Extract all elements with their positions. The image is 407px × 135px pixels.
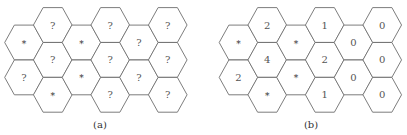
cell-value: ? [50,54,55,65]
cell-value: 0 [350,72,356,83]
cell-value: 1 [322,89,328,100]
cell-value: 0 [350,37,356,48]
cell-value: ? [108,89,113,100]
cell-value: 4 [264,54,270,65]
cell-value: ? [50,20,55,31]
cell-value: 2 [322,54,328,65]
cell-value: ? [108,54,113,65]
cell-value: ? [136,72,141,83]
hex-minesweeper-diagram: *???***???????? *224***12100000 (a) (b) [0,0,407,135]
panel-b: *224***12100000 [219,8,401,113]
mine-marker: * [265,91,270,101]
cell-value: 0 [379,20,385,31]
mine-marker: * [294,39,299,49]
cell-value: ? [136,37,141,48]
cell-value: ? [165,20,170,31]
cell-value: ? [108,20,113,31]
cell-value: ? [165,89,170,100]
cell-value: 1 [322,20,328,31]
cell-value: 0 [379,89,385,100]
mine-marker: * [79,39,84,49]
mine-marker: * [51,91,56,101]
mine-marker: * [294,73,299,83]
panel-b-label: (b) [304,119,318,130]
cell-value: 2 [264,20,270,31]
cell-value: 2 [235,72,241,83]
cell-value: 0 [379,54,385,65]
mine-marker: * [22,39,27,49]
panel-a-label: (a) [93,119,107,130]
mine-marker: * [79,73,84,83]
cell-value: ? [165,54,170,65]
mine-marker: * [236,39,241,49]
panel-a: *???***???????? [5,8,187,113]
cell-value: ? [21,72,26,83]
